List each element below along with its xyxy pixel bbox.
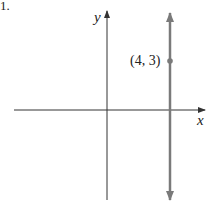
coordinate-plane: (4, 3) y x <box>0 0 210 202</box>
point-label: (4, 3) <box>130 53 161 69</box>
y-axis-label: y <box>92 9 101 25</box>
point-marker <box>167 58 173 64</box>
x-axis-label: x <box>196 112 204 128</box>
